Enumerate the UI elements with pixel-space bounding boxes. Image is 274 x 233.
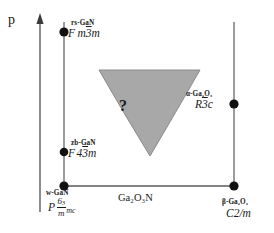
space-group-rs-gan: Fm3m xyxy=(68,27,100,39)
space-group-rs-gan-suffix: m xyxy=(92,27,100,39)
space-group-w-gan-fraction: 63 m xyxy=(57,197,67,218)
space-group-alpha-ga2o3: R3c xyxy=(195,98,213,110)
space-group-rs-gan-prefix: F xyxy=(68,27,75,39)
space-group-alpha-suffix: c xyxy=(208,98,213,110)
space-group-alpha-prefix: R xyxy=(195,98,202,110)
w-gan-num-sub: 3 xyxy=(62,199,65,206)
space-group-zb-gan: F43m xyxy=(68,147,96,159)
marker-zb-gan xyxy=(60,148,69,157)
pressure-axis-label: p xyxy=(8,13,15,28)
space-group-w-gan-numerator: 63 xyxy=(57,197,67,207)
unknown-phase-region-shape xyxy=(99,70,200,156)
pressure-axis-line xyxy=(36,13,43,212)
marker-beta-ga2o3 xyxy=(229,181,238,190)
space-group-beta-ga2o3: C2/m xyxy=(226,207,251,219)
space-group-w-gan-suffix: mc xyxy=(66,206,75,215)
space-group-zb-gan-suffix: m xyxy=(88,147,96,159)
phase-label-beta-ga2o3: β-Ga₂O₃ xyxy=(222,199,248,207)
space-group-w-gan-prefix: P xyxy=(48,201,55,213)
phase-diagram-figure: p rs-GaN Fm3m zb-GaN F43m w-GaN P 63 m m… xyxy=(0,0,274,233)
space-group-zb-gan-prefix: F xyxy=(68,147,75,159)
unknown-region-question-mark: ? xyxy=(119,98,127,115)
composition-axis-label: Ga₂O₃N xyxy=(118,192,153,203)
space-group-w-gan-denominator: m xyxy=(57,207,67,218)
space-group-w-gan: P 63 m mc xyxy=(48,198,76,219)
marker-alpha-ga2o3 xyxy=(229,99,238,108)
space-group-rs-gan-body: m xyxy=(78,27,86,39)
